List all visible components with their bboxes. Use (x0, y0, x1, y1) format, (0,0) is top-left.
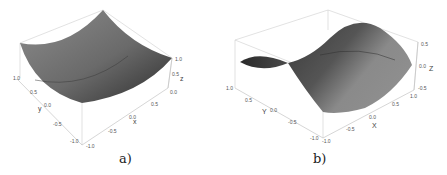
panel-a-caption: a) (119, 151, 132, 166)
b-x-label: X (372, 122, 377, 129)
panel-b-caption: b) (313, 151, 326, 166)
saddle-surface (288, 23, 412, 113)
a-z-tick-1: 0.5 (172, 71, 179, 77)
a-x-tick-0: -1.0 (86, 143, 95, 149)
a-z-tick-0: 1.0 (175, 56, 182, 62)
b-x-tick-1: -0.5 (346, 126, 355, 132)
b-x-tick-2: 0.0 (369, 114, 376, 120)
b-x-tick-4: 1.0 (410, 93, 417, 99)
b-y-tick-2: 0.0 (270, 107, 277, 113)
a-z-label: z (180, 75, 184, 82)
b-z-tick-2: -0.5 (418, 85, 427, 91)
b-y-tick-0: 1.0 (226, 85, 233, 91)
b-y-tick-1: 0.5 (245, 97, 252, 103)
a-y-tick-4: -1.0 (70, 138, 79, 144)
a-x-tick-3: 0.5 (151, 101, 158, 107)
b-z-tick-0: 0.5 (421, 41, 428, 47)
b-y-tick-3: -0.5 (288, 119, 297, 125)
a-x-tick-1: -0.5 (108, 128, 117, 134)
b-y-tick-4: -1.0 (310, 135, 319, 141)
panel-b-plot: 1.0 0.5 0.0 -0.5 -1.0 Y -1.0 -0.5 0.0 0.… (226, 10, 434, 144)
a-y-tick-2: 0.0 (44, 102, 51, 108)
figure-canvas: 1.0 0.5 0.0 -0.5 -1.0 y -1.0 -0.5 0.0 0.… (0, 0, 447, 175)
a-y-tick-0: 1.0 (13, 75, 20, 81)
b-x-tick-0: -1.0 (322, 138, 331, 144)
b-y-label: Y (262, 108, 267, 115)
a-z-tick-2: 0.0 (170, 89, 177, 95)
paraboloid-surface (20, 10, 172, 103)
panel-a-plot: 1.0 0.5 0.0 -0.5 -1.0 y -1.0 -0.5 0.0 0.… (13, 10, 184, 149)
a-x-label: x (133, 118, 137, 125)
b-x-tick-3: 0.5 (392, 101, 399, 107)
a-y-tick-1: 0.5 (30, 89, 37, 95)
a-y-label: y (38, 105, 42, 113)
b-z-tick-1: 0.0 (419, 63, 426, 69)
a-y-tick-3: -0.5 (53, 121, 62, 127)
b-z-label: Z (429, 65, 434, 72)
